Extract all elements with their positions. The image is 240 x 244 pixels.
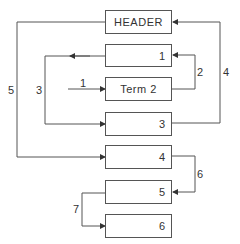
connector-6-label: 6	[197, 169, 203, 180]
header-box-label: HEADER	[114, 16, 163, 28]
box-5: 5	[105, 180, 172, 204]
connector-6	[172, 156, 195, 192]
connector-2	[172, 55, 195, 89]
connector-5-label: 5	[8, 85, 14, 96]
header-box: HEADER	[105, 10, 172, 34]
box-4-label: 4	[159, 151, 165, 163]
box-3: 3	[105, 112, 172, 136]
connector-4	[172, 22, 220, 123]
connector-7-label: 7	[73, 204, 79, 215]
term-2-label: Term 2	[120, 83, 157, 95]
connector-1-label: 1	[80, 78, 86, 89]
box-1-label: 1	[159, 50, 165, 62]
box-6: 6	[105, 214, 172, 238]
box-5-label: 5	[159, 186, 165, 198]
flow-diagram: HEADER 1 Term 2 3 4 5 6 1 2 3 4 5 6 7	[0, 0, 240, 244]
connector-3	[45, 56, 105, 124]
box-3-label: 3	[159, 118, 165, 130]
box-4: 4	[105, 145, 172, 169]
box-6-label: 6	[159, 220, 165, 232]
box-1: 1	[105, 44, 172, 67]
connector-7	[82, 193, 105, 226]
connector-3-label: 3	[36, 85, 42, 96]
term-2-box: Term 2	[105, 77, 172, 101]
connector-4-label: 4	[223, 67, 229, 78]
connector-2-label: 2	[197, 67, 203, 78]
